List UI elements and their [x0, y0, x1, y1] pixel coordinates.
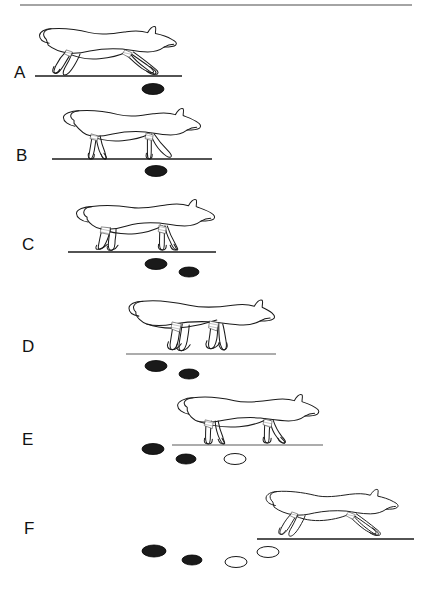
panel-e	[142, 395, 323, 465]
footprint-b-1	[145, 166, 167, 177]
panel-label-e: E	[22, 431, 33, 448]
footprint-d-2	[179, 369, 199, 379]
panel-b	[52, 109, 212, 177]
panel-d	[126, 300, 276, 379]
animal-e	[178, 395, 319, 444]
footprint-f-1	[142, 545, 166, 557]
animal-d	[129, 300, 275, 351]
panel-label-a: A	[14, 64, 25, 81]
footprint-e-3	[224, 454, 246, 465]
animal-b	[63, 109, 200, 159]
footprint-a-1	[142, 84, 164, 95]
animal-f	[266, 489, 398, 536]
panel-a	[35, 27, 182, 95]
footprint-f-4	[257, 547, 279, 558]
panel-label-d: D	[22, 338, 34, 355]
panel-label-c: C	[22, 236, 34, 253]
animal-c	[76, 200, 214, 251]
footprint-e-1	[142, 444, 164, 455]
panel-c	[68, 200, 216, 277]
footprint-e-2	[176, 454, 196, 464]
animal-a	[40, 27, 177, 76]
figure-canvas: A B C D E F	[0, 0, 432, 589]
panel-label-f: F	[24, 520, 34, 537]
footprint-c-2	[179, 267, 199, 277]
footprint-f-2	[182, 555, 202, 565]
footprint-c-1	[145, 259, 167, 270]
fox-gallop-sequence-svg	[0, 0, 432, 589]
footprint-d-1	[145, 361, 167, 372]
footprint-f-3	[225, 557, 247, 568]
panel-f	[142, 489, 414, 567]
panel-label-b: B	[16, 147, 27, 164]
